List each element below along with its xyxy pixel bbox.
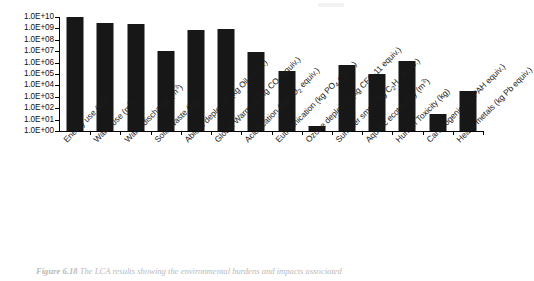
y-axis-tick-label: 1.0E+03: [8, 93, 54, 101]
y-axis-tick-label: 1.0E+06: [8, 58, 54, 66]
x-axis-tick-mark: [392, 131, 393, 135]
x-axis-tick-mark: [120, 131, 121, 135]
x-axis-tick-mark: [332, 131, 333, 135]
x-axis-tick-mark: [453, 131, 454, 135]
y-axis-tick-label: 1.0E+09: [8, 24, 54, 32]
bar[interactable]: [97, 23, 114, 131]
x-axis-category-labels: Energy use (MJ)Water use (m3)Water disch…: [0, 136, 495, 256]
x-axis-tick-mark: [272, 131, 273, 135]
x-axis-tick-mark: [423, 131, 424, 135]
x-axis-tick-mark: [181, 131, 182, 135]
y-axis-tick-label: 1.0E+01: [8, 115, 54, 123]
x-axis-tick-mark: [241, 131, 242, 135]
y-axis-tick-label: 1.0E+08: [8, 36, 54, 44]
y-axis-tick-label: 1.0E+02: [8, 104, 54, 112]
x-axis-tick-mark: [362, 131, 363, 135]
bar[interactable]: [67, 17, 84, 131]
x-axis-tick-mark: [90, 131, 91, 135]
y-axis-tick-labels: 1.0E+101.0E+091.0E+081.0E+071.0E+061.0E+…: [8, 12, 54, 136]
bar[interactable]: [127, 24, 144, 131]
x-axis-tick-mark: [151, 131, 152, 135]
x-axis-tick-mark: [211, 131, 212, 135]
y-axis-tick-label: 1.0E+05: [8, 70, 54, 78]
figure-caption: Figure 6.18 The LCA results showing the …: [36, 266, 488, 276]
figure-number: Figure 6.18: [36, 266, 78, 276]
y-axis-tick-label: 1.0E+04: [8, 81, 54, 89]
x-axis-tick-mark: [483, 131, 484, 135]
figure-caption-text: The LCA results showing the environmenta…: [80, 266, 342, 276]
x-axis-tick-mark: [302, 131, 303, 135]
y-axis-tick-label: 1.0E+00: [8, 127, 54, 135]
y-axis-tick-label: 1.0E+10: [8, 13, 54, 21]
y-axis-tick-label: 1.0E+07: [8, 47, 54, 55]
